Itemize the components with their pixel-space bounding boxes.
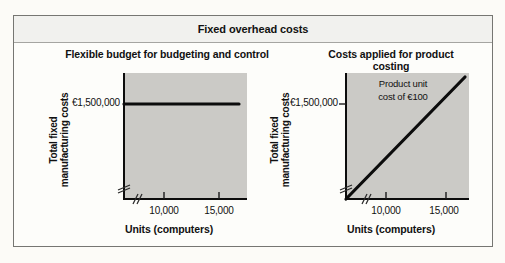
left-x-tick-10000: 10,000 xyxy=(139,205,189,216)
left-y-axis-title-line1: Total fixed xyxy=(48,85,59,195)
left-plot-area xyxy=(124,73,247,199)
figure-title: Fixed overhead costs xyxy=(14,16,492,43)
left-chart-plot xyxy=(114,65,254,209)
annotation-line2: cost of €100 xyxy=(362,90,444,103)
right-y-axis-title-line1: Total fixed xyxy=(269,85,280,195)
figure-panel: Fixed overhead costs Flexible budget for… xyxy=(13,15,493,247)
right-y-axis-title: Total fixed manufacturing costs xyxy=(269,85,291,195)
product-unit-cost-annotation: Product unit cost of €100 xyxy=(362,77,444,103)
right-x-axis-title: Units (computers) xyxy=(331,223,451,235)
right-y-axis-title-line2: manufacturing costs xyxy=(280,85,291,195)
left-y-axis-title: Total fixed manufacturing costs xyxy=(48,85,70,195)
left-chart-title: Flexible budget for budgeting and contro… xyxy=(27,48,307,60)
annotation-line1: Product unit xyxy=(362,77,444,90)
left-x-tick-15000: 15,000 xyxy=(194,205,244,216)
right-x-tick-15000: 15,000 xyxy=(419,205,469,216)
left-x-axis-title: Units (computers) xyxy=(109,223,229,235)
left-y-axis-title-line2: manufacturing costs xyxy=(59,85,70,195)
right-x-tick-10000: 10,000 xyxy=(361,205,411,216)
